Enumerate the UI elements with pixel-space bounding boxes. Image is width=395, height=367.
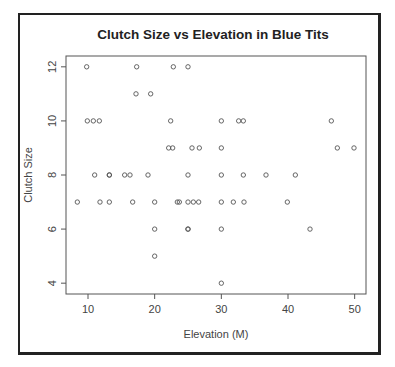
data-point <box>241 119 245 123</box>
data-point <box>196 200 200 204</box>
data-point <box>191 200 195 204</box>
x-tick-label: 20 <box>149 303 161 315</box>
data-point <box>171 65 175 69</box>
data-point <box>186 173 190 177</box>
data-point <box>134 92 138 96</box>
data-point <box>92 173 96 177</box>
data-point <box>97 119 101 123</box>
data-point <box>130 200 134 204</box>
data-point <box>241 173 245 177</box>
data-point <box>219 200 223 204</box>
y-tick-label: 4 <box>46 280 58 286</box>
data-point <box>146 173 150 177</box>
x-axis: 1020304050 <box>82 294 361 315</box>
x-tick-label: 30 <box>215 303 227 315</box>
data-point <box>285 200 289 204</box>
data-point <box>293 173 297 177</box>
y-axis-label: Clutch Size <box>22 147 34 203</box>
data-point <box>190 146 194 150</box>
data-point <box>308 227 312 231</box>
data-point <box>236 119 240 123</box>
data-point <box>242 200 246 204</box>
x-tick-label: 40 <box>282 303 294 315</box>
data-point <box>231 200 235 204</box>
data-point <box>152 227 156 231</box>
data-point <box>335 146 339 150</box>
data-point <box>75 200 79 204</box>
data-point <box>219 173 223 177</box>
data-point <box>152 200 156 204</box>
data-point <box>168 119 172 123</box>
data-point <box>219 227 223 231</box>
data-point <box>148 92 152 96</box>
y-tick-label: 8 <box>46 172 58 178</box>
chart-title: Clutch Size vs Elevation in Blue Tits <box>97 27 329 42</box>
data-point <box>219 119 223 123</box>
data-point <box>152 254 156 258</box>
data-point <box>107 173 111 177</box>
data-point <box>84 65 88 69</box>
data-point <box>91 119 95 123</box>
data-point <box>352 146 356 150</box>
data-point <box>329 119 333 123</box>
data-point <box>186 227 190 231</box>
y-tick-label: 6 <box>46 226 58 232</box>
data-point <box>128 173 132 177</box>
data-point <box>186 65 190 69</box>
plot-area <box>66 56 366 294</box>
data-points <box>75 65 356 286</box>
y-tick-label: 10 <box>46 115 58 127</box>
y-axis: 4681012 <box>46 61 66 287</box>
data-point <box>264 173 268 177</box>
x-tick-label: 10 <box>82 303 94 315</box>
data-point <box>134 65 138 69</box>
data-point <box>107 200 111 204</box>
x-axis-label: Elevation (M) <box>184 328 249 340</box>
data-point <box>122 173 126 177</box>
data-point <box>197 146 201 150</box>
scatter-chart: Clutch Size vs Elevation in Blue Tits 10… <box>0 0 395 367</box>
y-tick-label: 12 <box>46 61 58 73</box>
data-point <box>85 119 89 123</box>
data-point <box>219 146 223 150</box>
data-point <box>219 281 223 285</box>
data-point <box>98 200 102 204</box>
x-tick-label: 50 <box>349 303 361 315</box>
data-point <box>186 200 190 204</box>
